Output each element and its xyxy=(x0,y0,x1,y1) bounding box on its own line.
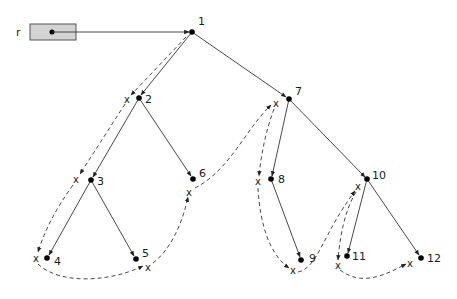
tree-node-9: 9 xyxy=(298,252,316,265)
node-label: 6 xyxy=(199,167,206,180)
tree-node-6: 6 xyxy=(190,167,206,182)
edge-2-6 xyxy=(139,98,191,176)
tree-node-10: 10 xyxy=(364,169,386,182)
x-marker-12: x xyxy=(407,258,413,269)
tree-node-1: 1 xyxy=(189,15,205,35)
node-label: 7 xyxy=(295,85,302,98)
traversal-11-12 xyxy=(340,264,406,278)
node-dot xyxy=(189,29,195,35)
node-label: 8 xyxy=(278,173,285,186)
tree-node-2: 2 xyxy=(136,93,152,106)
tree-edges xyxy=(49,32,419,257)
x-marker-3: x xyxy=(73,174,79,185)
traversal-1-2 xyxy=(131,37,186,95)
tree-node-5: 5 xyxy=(133,247,149,262)
edge-1-7 xyxy=(192,32,286,97)
x-markers: xxxxxxxxxxx xyxy=(33,94,413,276)
node-label: 9 xyxy=(309,252,316,265)
x-marker-9: x xyxy=(290,265,296,276)
node-dot xyxy=(136,95,142,101)
tree-node-12: 12 xyxy=(418,252,441,265)
tree-node-8: 8 xyxy=(268,173,285,186)
edge-7-8 xyxy=(272,99,289,176)
traversal-7-8 xyxy=(259,109,274,176)
traversal-3-4 xyxy=(38,185,73,252)
x-marker-5: x xyxy=(145,262,151,273)
tree-node-3: 3 xyxy=(88,175,104,188)
node-dot xyxy=(286,96,292,102)
edge-7-10 xyxy=(289,99,365,177)
edge-3-4 xyxy=(49,180,91,255)
x-marker-11: x xyxy=(335,260,341,271)
edge-2-3 xyxy=(93,98,139,177)
node-label: 4 xyxy=(54,255,61,268)
node-dot xyxy=(133,256,139,262)
node-label: 5 xyxy=(142,247,149,260)
edge-8-9 xyxy=(271,179,300,257)
edge-3-5 xyxy=(91,180,134,256)
root-pointer-label: r xyxy=(16,26,21,39)
node-label: 11 xyxy=(352,250,366,263)
node-label: 3 xyxy=(97,175,104,188)
node-dot xyxy=(44,255,50,261)
traversal-5-6 xyxy=(153,197,188,263)
x-marker-10: x xyxy=(355,181,361,192)
node-dot xyxy=(268,176,274,182)
tree-node-7: 7 xyxy=(286,85,302,102)
tree-node-4: 4 xyxy=(44,255,61,268)
node-dot xyxy=(88,177,94,183)
x-marker-8: x xyxy=(255,176,261,187)
tree-nodes: 123456789101112 xyxy=(44,15,441,268)
traversal-9-10 xyxy=(298,191,355,272)
node-label: 12 xyxy=(427,252,441,265)
node-dot xyxy=(418,255,424,261)
traversal-8-9 xyxy=(258,188,289,268)
node-dot xyxy=(298,257,304,263)
x-marker-6: x xyxy=(186,187,192,198)
traversal-2-3 xyxy=(80,104,125,174)
node-dot xyxy=(344,253,350,259)
tree-node-11: 11 xyxy=(344,250,366,263)
node-label: 2 xyxy=(145,93,152,106)
node-dot xyxy=(364,176,370,182)
x-marker-2: x xyxy=(124,94,130,105)
tree-diagram: r 123456789101112 xxxxxxxxxxx xyxy=(0,0,457,299)
x-marker-7: x xyxy=(273,98,279,109)
x-marker-4: x xyxy=(33,253,39,264)
edge-10-12 xyxy=(367,179,419,255)
node-label: 10 xyxy=(372,169,386,182)
node-label: 1 xyxy=(198,15,205,28)
edge-1-2 xyxy=(141,32,192,95)
node-dot xyxy=(190,176,196,182)
